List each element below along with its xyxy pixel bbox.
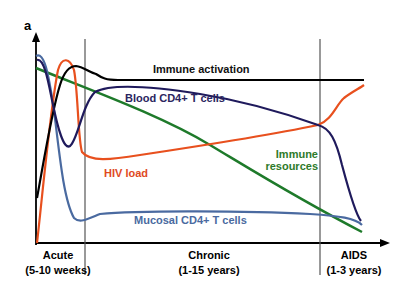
immune-resources-label: Immune resources <box>238 148 318 172</box>
phase-aids-duration: (1-3 years) <box>316 264 392 276</box>
immune-activation-curve <box>37 66 364 198</box>
phase-acute-duration: (5-10 weeks) <box>20 264 96 276</box>
hiv-load-label: HIV load <box>104 167 148 179</box>
immune-activation-label: Immune activation <box>153 63 250 75</box>
phase-aids-name: AIDS <box>316 249 392 261</box>
mucosal-cd4-label: Mucosal CD4+ T cells <box>134 214 247 226</box>
panel-label: a <box>24 20 31 32</box>
phase-aids: AIDS (1-3 years) <box>316 249 392 276</box>
phase-chronic: Chronic (1-15 years) <box>168 249 250 276</box>
blood-cd4-label: Blood CD4+ T cells <box>125 92 225 104</box>
immune-resources-text: Immune resources <box>238 148 320 172</box>
phase-chronic-duration: (1-15 years) <box>168 264 250 276</box>
phase-acute: Acute (5-10 weeks) <box>20 249 96 276</box>
phase-chronic-name: Chronic <box>168 249 250 261</box>
phase-acute-name: Acute <box>20 249 96 261</box>
